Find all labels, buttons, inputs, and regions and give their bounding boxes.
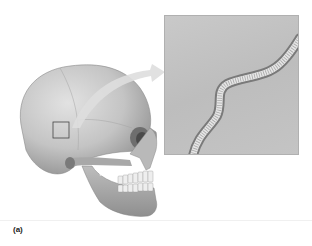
suture-detail (165, 16, 299, 155)
divider (0, 220, 312, 221)
panel-label: (a) (13, 225, 23, 234)
teeth (118, 171, 153, 192)
magnified-suture-inset (164, 15, 299, 155)
skull-suture-figure: (a) (0, 0, 312, 246)
